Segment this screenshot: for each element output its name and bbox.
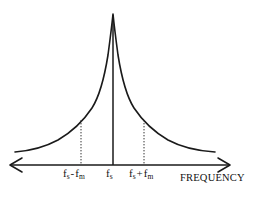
upper-sideband-sub1: s [133,172,136,181]
upper-sideband-operator: + [136,167,144,179]
carrier-label: fs [106,168,113,179]
carrier-sub: s [110,172,113,181]
axis-title-frequency: FREQUENCY [180,172,245,183]
lower-sideband-sub2: m [79,172,85,181]
upper-sideband-sub2: m [147,172,153,181]
noise-skirt-curve [15,14,215,152]
spectrum-plot-area [0,0,254,198]
phase-noise-spectrum-figure: fs-fm fs fs+fm FREQUENCY [0,0,254,198]
upper-sideband-label: fs+fm [129,168,153,179]
lower-sideband-label: fs-fm [63,168,85,179]
lower-sideband-sub1: s [67,172,70,181]
